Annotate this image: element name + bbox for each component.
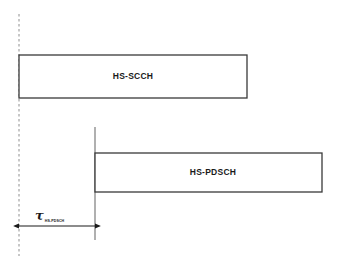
hs-scch-label: HS-SCCH (113, 71, 153, 81)
hs-pdsch-label: HS-PDSCH (190, 167, 236, 177)
tau-symbol: τ (35, 208, 44, 223)
hsdpa-timing-diagram: HS-SCCH HS-PDSCH τHS-PDSCH (0, 0, 337, 266)
tau-subscript: HS-PDSCH (45, 219, 65, 223)
diagram-canvas (0, 0, 337, 266)
tau-offset-label: τHS-PDSCH (35, 206, 63, 224)
